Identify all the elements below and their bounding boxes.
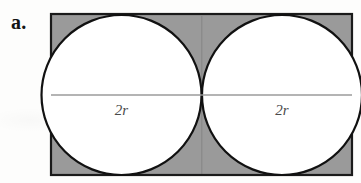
right-diameter-label: 2r	[275, 102, 289, 118]
left-diameter-label: 2r	[115, 102, 129, 118]
geometry-diagram: 2r 2r	[0, 0, 361, 183]
figure-container: a. 2r 2r	[0, 0, 361, 183]
